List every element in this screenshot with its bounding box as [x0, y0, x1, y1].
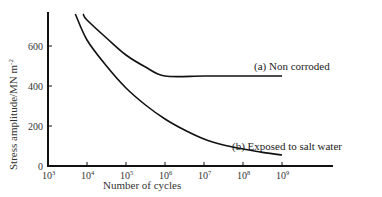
x-tick-label: 103: [42, 169, 55, 181]
x-tick-label: 108: [237, 169, 250, 181]
y-tick-label: 200: [28, 121, 43, 132]
y-tick-label: 600: [28, 41, 43, 52]
svg-text:Stress amplitude/MN m-2: Stress amplitude/MN m-2: [7, 59, 19, 170]
x-axis-title: Number of cycles: [103, 179, 181, 191]
x-tick-label: 104: [81, 169, 95, 181]
fatigue-chart: 0200400600 103104105106107108109 (a) Non…: [0, 0, 382, 197]
y-tick-label: 400: [28, 81, 43, 92]
curves: [75, 14, 282, 155]
x-tick-label: 107: [198, 169, 212, 181]
y-axis-title: Stress amplitude/MN m-2: [7, 59, 19, 170]
curve-salt-water: [75, 14, 282, 155]
annotation-salt-water: (b) Exposed to salt water: [232, 140, 342, 153]
curve-non-corroded: [83, 14, 282, 77]
x-tick-label: 109: [276, 169, 289, 181]
annotation-non-corroded: (a) Non corroded: [254, 60, 330, 73]
y-axis-title-superscript: -2: [7, 59, 15, 65]
y-axis-title-main: Stress amplitude/MN m: [7, 64, 19, 170]
